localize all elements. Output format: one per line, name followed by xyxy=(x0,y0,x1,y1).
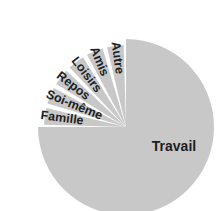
label-travail: Travail xyxy=(152,138,196,154)
pie-chart: TravailFamilleSoi-mêmeReposLoisirsAmisAu… xyxy=(0,0,224,211)
